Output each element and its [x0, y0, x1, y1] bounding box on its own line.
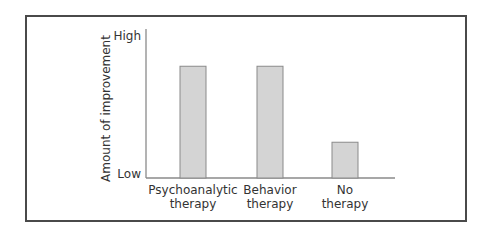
bar-psychoanalytic-therapy [180, 66, 206, 178]
x-tick-label: No [337, 183, 353, 197]
x-tick-label: therapy [170, 197, 217, 211]
y-tick-label-high: High [113, 29, 141, 43]
bar-no-therapy [332, 142, 358, 178]
x-tick-label: therapy [322, 197, 369, 211]
bar-behavior-therapy [257, 66, 283, 178]
x-tick-label: Behavior [243, 183, 296, 197]
x-tick-label: Psychoanalytic [148, 183, 237, 197]
bars-group [180, 66, 358, 178]
x-tick-labels: PsychoanalytictherapyBehaviortherapyNoth… [148, 183, 368, 211]
y-axis-label: Amount of improvement [99, 35, 113, 182]
x-tick-label: therapy [247, 197, 294, 211]
bar-chart: High Low Amount of improvement Psychoana… [0, 0, 494, 235]
y-tick-label-low: Low [117, 167, 141, 181]
